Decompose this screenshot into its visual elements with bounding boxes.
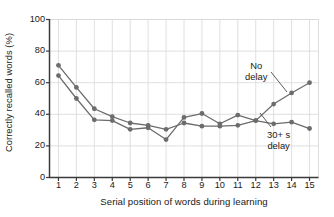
x-tick-label: 7 — [164, 181, 169, 190]
data-point — [74, 85, 79, 90]
annotation-no-delay-line1: No — [245, 60, 267, 71]
data-point — [128, 127, 133, 132]
data-point — [110, 118, 115, 123]
x-tick-label: 10 — [215, 181, 225, 190]
data-point — [182, 115, 187, 120]
annotation-leader-line — [260, 113, 271, 127]
x-tick-label: 12 — [251, 181, 261, 190]
annotation-delay: 30+ s delay — [267, 129, 290, 151]
data-point — [271, 102, 276, 107]
data-point — [128, 121, 133, 126]
data-point — [217, 121, 222, 126]
x-tick-label: 8 — [181, 181, 186, 190]
x-tick-label: 11 — [233, 181, 243, 190]
x-axis-tick-labels: 123456789101112131415 — [0, 181, 334, 193]
x-tick-label: 13 — [269, 181, 279, 190]
annotation-no-delay-line2: delay — [245, 71, 267, 82]
data-point — [56, 63, 61, 68]
data-point — [92, 117, 97, 122]
data-point — [182, 121, 187, 126]
data-point — [307, 80, 312, 85]
annotation-no-delay: No delay — [245, 60, 267, 82]
x-tick-label: 2 — [74, 181, 79, 190]
data-point — [164, 137, 169, 142]
annotation-delay-line2: delay — [267, 140, 290, 151]
data-point — [271, 121, 276, 126]
chart-figure: Correctly recalled words (%) 02040608010… — [0, 0, 334, 217]
x-tick-label: 15 — [304, 181, 314, 190]
data-point — [92, 106, 97, 111]
data-point — [289, 120, 294, 125]
data-point — [164, 127, 169, 132]
x-tick-label: 9 — [199, 181, 204, 190]
x-tick-label: 14 — [286, 181, 296, 190]
data-point — [235, 123, 240, 128]
x-tick-label: 3 — [92, 181, 97, 190]
x-axis-label: Serial position of words during learning — [49, 196, 319, 207]
data-point — [56, 73, 61, 78]
annotation-delay-line1: 30+ s — [267, 129, 290, 140]
x-tick-label: 5 — [128, 181, 133, 190]
x-tick-label: 4 — [110, 181, 115, 190]
data-point — [235, 113, 240, 118]
data-point — [200, 124, 205, 129]
data-point — [253, 118, 258, 123]
data-point — [74, 96, 79, 101]
data-point — [146, 125, 151, 130]
x-tick-label: 1 — [56, 181, 61, 190]
data-point — [307, 126, 312, 131]
x-tick-label: 6 — [146, 181, 151, 190]
data-point — [289, 91, 294, 96]
data-point — [200, 111, 205, 116]
